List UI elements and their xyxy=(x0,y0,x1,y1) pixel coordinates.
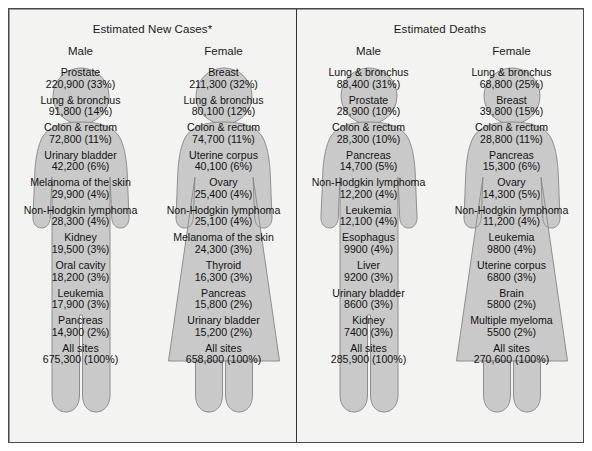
column-male-deaths: Male Lung & bronchus88,400 (31%) Prostat… xyxy=(297,45,440,440)
sex-label-female: Female xyxy=(440,45,583,57)
column-female-deaths: Female Lung & bronchus68,800 (25%) Breas… xyxy=(440,45,583,440)
sex-label-male: Male xyxy=(9,45,152,57)
panel-estimated-deaths: Estimated Deaths Male Lung & bronchus88,… xyxy=(296,9,583,442)
panel-estimated-new-cases: Estimated New Cases* Male Prostate220,90… xyxy=(9,9,296,442)
female-silhouette xyxy=(152,65,295,435)
sex-label-female: Female xyxy=(152,45,295,57)
column-male-new-cases: Male Prostate220,900 (33%) Lung & bronch… xyxy=(9,45,152,440)
panel-title: Estimated New Cases* xyxy=(9,23,296,35)
sex-label-male: Male xyxy=(297,45,440,57)
male-silhouette xyxy=(9,65,152,435)
male-silhouette xyxy=(297,65,440,435)
column-female-new-cases: Female Breast211,300 (32%) Lung & bronch… xyxy=(152,45,295,440)
female-silhouette xyxy=(440,65,583,435)
panel-title: Estimated Deaths xyxy=(297,23,583,35)
infographic-frame: Estimated New Cases* Male Prostate220,90… xyxy=(8,8,584,443)
